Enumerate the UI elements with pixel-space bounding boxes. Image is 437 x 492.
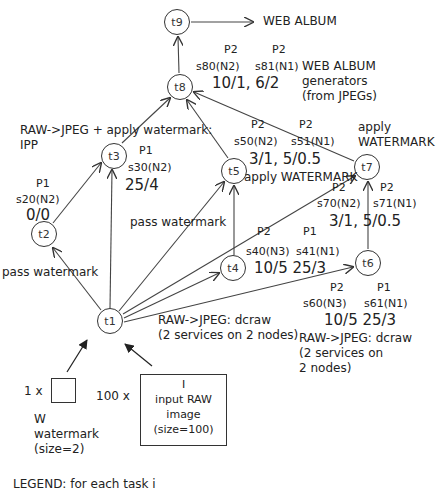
web-album-gen-line2: generators: [302, 74, 368, 89]
t4-service-b: s41(N1): [296, 244, 340, 259]
t6-proc-b: P1: [377, 280, 391, 295]
raw-image-desc-2: image: [141, 407, 226, 422]
node-label: t8: [174, 81, 185, 94]
t7-proc-a: P2: [332, 180, 346, 195]
edge-t2-t3: [53, 163, 101, 223]
node-label: t1: [104, 315, 115, 328]
t6-costs: 10/5 25/3: [324, 311, 396, 329]
t3-costs: 25/4: [125, 176, 159, 194]
t2-proc: P1: [36, 176, 50, 191]
t4-proc-b: P1: [303, 224, 317, 239]
watermark-size: (size=2): [34, 442, 84, 457]
web-album-output-label: WEB ALBUM: [263, 14, 337, 29]
t3-desc-line2: IPP: [20, 138, 38, 153]
web-album-gen-line1: WEB ALBUM: [302, 59, 376, 74]
t6-service-a: s60(N3): [303, 296, 347, 311]
t4-costs: 10/5 25/3: [254, 259, 326, 277]
raw-image-input-box: I input RAW image (size=100): [140, 374, 227, 446]
t6-proc-a: P2: [330, 280, 344, 295]
pass-watermark-t5-label: pass watermark: [130, 215, 226, 230]
edge-t1-t5: [119, 182, 224, 311]
edge-t1-t3: [110, 170, 112, 308]
watermark-multiplier: 1 x: [24, 384, 43, 399]
t2-costs: 0/0: [26, 206, 50, 224]
t6-desc-line3: 2 nodes): [299, 361, 351, 376]
t7-proc-b: P2: [380, 180, 394, 195]
t6-desc-line2: (2 services on: [299, 346, 383, 361]
t4-proc-a: P2: [257, 224, 271, 239]
legend-title: LEGEND: for each task i: [13, 477, 156, 492]
node-label: t7: [361, 161, 372, 174]
node-label: t5: [228, 165, 239, 178]
task-node-t7: t7: [354, 154, 380, 180]
t5-service-b: s51(N1): [291, 134, 335, 149]
watermark-name: W: [34, 412, 46, 427]
t5-service-a: s50(N2): [234, 134, 278, 149]
task-node-t6: t6: [355, 250, 381, 276]
task-node-t2: t2: [31, 221, 57, 247]
task-node-t1: t1: [97, 308, 123, 334]
t8-costs: 10/1, 6/2: [212, 74, 279, 92]
t4-desc-line2: (2 services on 2 nodes): [158, 328, 298, 343]
t3-service: s30(N2): [128, 160, 172, 175]
node-label: t9: [171, 16, 182, 29]
raw-image-desc-1: input RAW: [141, 392, 226, 407]
t4-desc-line1: RAW->JPEG: dcraw: [158, 313, 271, 328]
web-album-gen-line3: (from JPEGs): [302, 89, 377, 104]
t8-proc-b: P2: [272, 42, 286, 57]
t7-service-b: s71(N1): [373, 196, 417, 211]
t7-costs: 3/1, 5/0.5: [329, 212, 401, 230]
t5-proc-a: P2: [251, 117, 265, 132]
t3-proc: P1: [139, 143, 153, 158]
raw-image-name: I: [141, 377, 226, 392]
t6-desc-line1: RAW->JPEG: dcraw: [299, 331, 412, 346]
t8-service-b: s81(N1): [255, 59, 299, 74]
task-node-t3: t3: [101, 143, 127, 169]
t5-proc-b: P2: [299, 117, 313, 132]
task-node-t9: t9: [164, 9, 190, 35]
node-label: t3: [108, 150, 119, 163]
node-label: t2: [38, 228, 49, 241]
t8-proc-a: P2: [224, 42, 238, 57]
t6-service-b: s61(N1): [364, 296, 408, 311]
edge-t8-t9: [178, 37, 179, 73]
t2-service: s20(N2): [16, 192, 60, 207]
t8-service-a: s80(N2): [196, 59, 240, 74]
pass-watermark-t2-label: pass watermark: [2, 265, 98, 280]
watermark-desc: watermark: [34, 427, 99, 442]
node-label: t4: [227, 262, 238, 275]
raw-image-multiplier: 100 x: [96, 389, 130, 404]
edge-watermark-t1: [67, 340, 87, 372]
watermark-input-box: [51, 378, 76, 403]
t7-service-a: s70(N2): [317, 196, 361, 211]
task-node-t4: t4: [220, 255, 246, 281]
t7-desc-line1: apply: [358, 120, 391, 135]
t5-costs: 3/1, 5/0.5: [249, 150, 321, 168]
node-label: t6: [362, 257, 373, 270]
t4-service-a: s40(N3): [246, 244, 290, 259]
t3-desc-line1: RAW->JPEG + apply watermark:: [20, 123, 212, 138]
task-node-t8: t8: [167, 74, 193, 100]
raw-image-size: (size=100): [141, 422, 226, 437]
edge-input-t1: [125, 344, 152, 366]
t7-desc-line2: WATERMARK: [358, 135, 435, 150]
edge-t1-t4: [124, 273, 219, 318]
